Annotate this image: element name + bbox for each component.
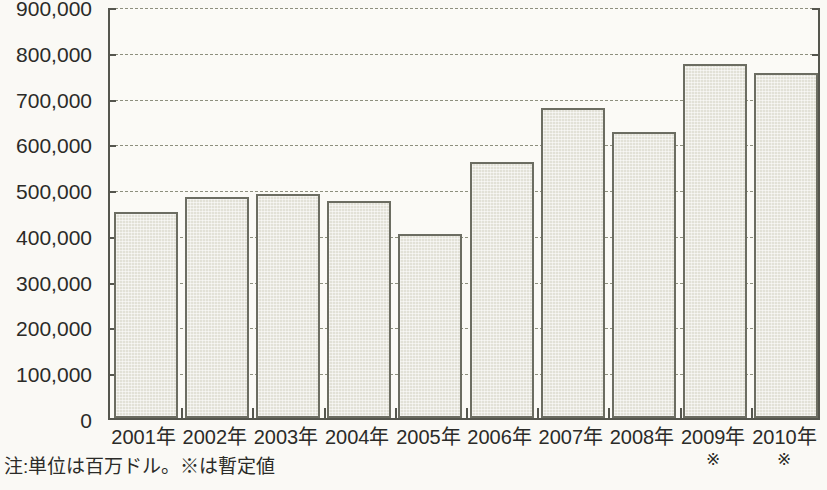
bar[interactable] [612, 132, 676, 418]
x-axis-tick [181, 408, 183, 419]
plot-area [108, 8, 820, 420]
x-axis-label-slot: 2010年※ [749, 424, 820, 469]
bar[interactable] [398, 234, 462, 418]
x-axis-label-slot: 2003年 [250, 424, 321, 450]
bar-slot [680, 8, 751, 418]
x-axis-tick-label: 2005年 [393, 424, 464, 450]
x-axis-label-slot: 2008年 [606, 424, 677, 450]
x-axis-tick [324, 408, 326, 419]
bar-slot [324, 8, 395, 418]
y-axis-tick-label: 200,000 [0, 318, 98, 339]
x-axis-tick-label: 2006年 [464, 424, 535, 450]
bar[interactable] [256, 194, 320, 418]
x-axis-tick [537, 408, 539, 419]
x-axis-tick-label: 2008年 [606, 424, 677, 450]
bar[interactable] [327, 201, 391, 418]
bar-slot [608, 8, 679, 418]
x-axis-label-slot: 2009年※ [678, 424, 749, 469]
y-axis-tick-label: 600,000 [0, 135, 98, 156]
x-axis-tick-label: 2009年 [678, 424, 749, 450]
bar-slot [395, 8, 466, 418]
x-axis-tick-label: 2004年 [322, 424, 393, 450]
y-axis-tick-label: 500,000 [0, 181, 98, 202]
x-axis-label-slot: 2002年 [179, 424, 250, 450]
y-axis-tick-label: 300,000 [0, 272, 98, 293]
y-axis-labels: 0100,000200,000300,000400,000500,000600,… [0, 8, 98, 420]
y-axis-tick-label: 700,000 [0, 89, 98, 110]
x-axis-tick [252, 408, 254, 419]
x-axis-tick-label: 2001年 [108, 424, 179, 450]
x-axis-tick [395, 408, 397, 419]
bar-slot [110, 8, 181, 418]
x-axis-tick [466, 408, 468, 419]
bar-slot [466, 8, 537, 418]
bar[interactable] [114, 212, 178, 418]
x-axis-label-slot: 2004年 [322, 424, 393, 450]
y-axis-tick-label: 400,000 [0, 226, 98, 247]
provisional-value-mark: ※ [749, 450, 820, 469]
bar[interactable] [185, 197, 249, 418]
bar-chart-figure: 0100,000200,000300,000400,000500,000600,… [0, 0, 827, 490]
y-axis-tick-label: 0 [0, 410, 98, 431]
bar-slot [751, 8, 822, 418]
x-axis-tick-label: 2010年 [749, 424, 820, 450]
x-axis-tick-label: 2007年 [535, 424, 606, 450]
x-axis-label-slot: 2005年 [393, 424, 464, 450]
bar[interactable] [541, 108, 605, 418]
x-axis-tick [680, 408, 682, 419]
y-axis-tick-label: 100,000 [0, 364, 98, 385]
bar[interactable] [754, 73, 818, 418]
x-axis-label-slot: 2007年 [535, 424, 606, 450]
x-axis-label-slot: 2006年 [464, 424, 535, 450]
provisional-value-mark: ※ [678, 450, 749, 469]
x-axis-tick-label: 2002年 [179, 424, 250, 450]
x-axis-tick [608, 408, 610, 419]
chart-footnote: 注:単位は百万ドル。※は暫定値 [4, 455, 275, 479]
bar-slot [537, 8, 608, 418]
x-axis-label-slot: 2001年 [108, 424, 179, 450]
y-axis-tick-label: 900,000 [0, 0, 98, 19]
bar[interactable] [470, 162, 534, 418]
bar-slot [181, 8, 252, 418]
x-axis-tick-label: 2003年 [250, 424, 321, 450]
y-axis-tick-label: 800,000 [0, 43, 98, 64]
bar-slot [252, 8, 323, 418]
x-axis-tick [751, 408, 753, 419]
bars-layer [110, 8, 818, 418]
bar[interactable] [683, 64, 747, 418]
